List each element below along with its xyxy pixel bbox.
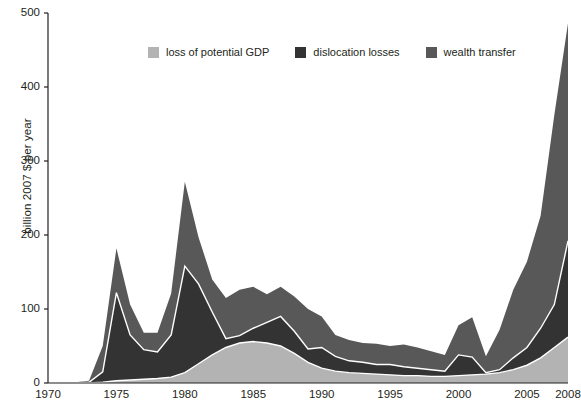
x-tick-1980: 1980 xyxy=(172,388,198,400)
x-tick-1970: 1970 xyxy=(35,388,61,400)
x-tick-2008: 2008 xyxy=(555,388,581,400)
x-tick-2000: 2000 xyxy=(446,388,472,400)
x-tick-1990: 1990 xyxy=(309,388,335,400)
x-tick-1975: 1975 xyxy=(104,388,130,400)
x-tick-2005: 2005 xyxy=(514,388,540,400)
x-tick-1985: 1985 xyxy=(240,388,266,400)
x-tick-1995: 1995 xyxy=(377,388,403,400)
